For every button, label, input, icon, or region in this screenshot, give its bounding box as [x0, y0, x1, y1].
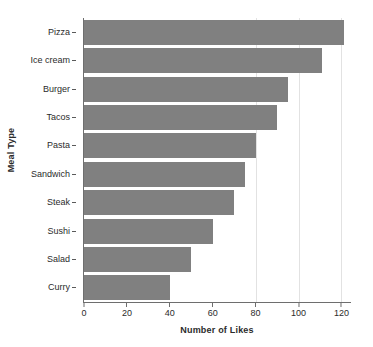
bar [84, 133, 256, 158]
bar [84, 190, 234, 215]
bar-chart: Meal Type PizzaIce creamBurgerTacosPasta… [0, 0, 373, 347]
y-axis-tick-label: Steak [47, 198, 70, 207]
y-axis-tick: Ice cream [20, 46, 78, 74]
bar [84, 219, 213, 244]
bar-row [84, 160, 350, 188]
y-axis-tick-label: Salad [47, 255, 70, 264]
x-axis-tick: 0 [81, 303, 86, 318]
y-axis-tick: Pizza [20, 18, 78, 46]
y-axis-tick-label: Ice cream [30, 56, 70, 65]
y-axis-tick-mark [72, 32, 76, 33]
y-axis-tick-label: Sushi [47, 227, 70, 236]
x-axis-tick: 20 [122, 303, 132, 318]
x-axis-tick: 40 [165, 303, 175, 318]
y-axis-tick: Sandwich [20, 160, 78, 188]
x-axis-tick-label: 20 [122, 309, 132, 318]
y-axis-tick: Salad [20, 245, 78, 273]
y-axis-tick-mark [72, 231, 76, 232]
y-axis-tick-labels: PizzaIce creamBurgerTacosPastaSandwichSt… [20, 18, 78, 302]
x-axis-tick: 120 [334, 303, 349, 318]
bar-row [84, 46, 350, 74]
y-axis-tick: Sushi [20, 217, 78, 245]
x-axis-tick: 60 [208, 303, 218, 318]
y-axis-tick: Pasta [20, 132, 78, 160]
y-axis-tick: Steak [20, 188, 78, 216]
y-axis-tick-label: Tacos [46, 113, 70, 122]
bar-row [84, 103, 350, 131]
y-axis-tick-mark [72, 117, 76, 118]
x-axis-tick: 80 [251, 303, 261, 318]
x-axis-tick-label: 40 [165, 309, 175, 318]
bar-row [84, 245, 350, 273]
x-axis-tick: 100 [291, 303, 306, 318]
y-axis-tick-label: Sandwich [31, 170, 70, 179]
x-axis-tick-label: 80 [251, 309, 261, 318]
y-axis-title: Meal Type [0, 0, 22, 300]
y-axis-tick-mark [72, 287, 76, 288]
bar-row [84, 274, 350, 302]
bars-layer [84, 18, 350, 302]
x-axis-tick-label: 60 [208, 309, 218, 318]
bar-row [84, 18, 350, 46]
bar [84, 162, 245, 187]
x-axis-tick-mark [83, 303, 84, 307]
y-axis-tick-label: Burger [43, 85, 70, 94]
x-axis-tick-mark [298, 303, 299, 307]
y-axis-tick-mark [72, 89, 76, 90]
y-axis-tick: Tacos [20, 103, 78, 131]
y-axis-tick: Curry [20, 274, 78, 302]
bar-row [84, 132, 350, 160]
y-axis-tick-mark [72, 202, 76, 203]
y-axis-title-text: Meal Type [6, 128, 16, 173]
y-axis-tick-label: Curry [48, 283, 70, 292]
bar-row [84, 75, 350, 103]
y-axis-tick: Burger [20, 75, 78, 103]
bar-row [84, 217, 350, 245]
bar [84, 247, 191, 272]
bar [84, 48, 322, 73]
x-axis-tick-labels: 020406080100120 [84, 303, 350, 323]
y-axis-line [83, 18, 84, 303]
x-axis-tick-mark [126, 303, 127, 307]
y-axis-tick-mark [72, 174, 76, 175]
x-axis-tick-mark [341, 303, 342, 307]
x-axis-tick-mark [169, 303, 170, 307]
y-axis-tick-mark [72, 259, 76, 260]
bar [84, 77, 288, 102]
bar [84, 20, 344, 45]
bar [84, 275, 170, 300]
y-axis-tick-label: Pasta [47, 141, 70, 150]
x-axis-tick-label: 0 [81, 309, 86, 318]
x-axis-tick-mark [255, 303, 256, 307]
x-axis-tick-mark [212, 303, 213, 307]
bar-row [84, 188, 350, 216]
y-axis-tick-label: Pizza [48, 28, 70, 37]
x-axis-tick-label: 120 [334, 309, 349, 318]
x-axis-tick-label: 100 [291, 309, 306, 318]
x-axis-title: Number of Likes [84, 325, 350, 335]
y-axis-tick-mark [72, 60, 76, 61]
plot-area [84, 18, 350, 302]
bar [84, 105, 277, 130]
y-axis-tick-mark [72, 145, 76, 146]
